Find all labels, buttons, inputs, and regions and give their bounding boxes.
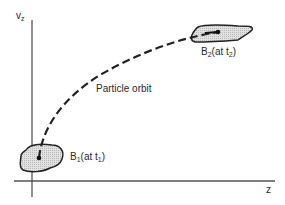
phase-space-diagram: [0, 0, 285, 205]
b1-label: B1(at t1): [70, 152, 105, 163]
orbit-label: Particle orbit: [96, 84, 152, 94]
b1-point: [37, 156, 42, 161]
x-axis-label: z: [266, 185, 271, 195]
b2-label: B2(at t2): [201, 47, 236, 58]
particle-orbit-curve: [39, 32, 218, 158]
y-axis-label: vz: [16, 11, 25, 22]
region-b1: [20, 144, 63, 171]
region-b2: [191, 25, 252, 42]
